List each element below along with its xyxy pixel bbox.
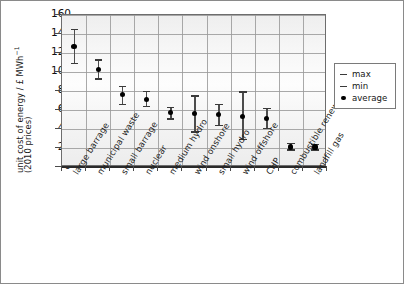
legend-dash-icon bbox=[339, 70, 348, 79]
average-marker bbox=[264, 116, 269, 121]
gridline-horizontal bbox=[62, 91, 325, 92]
average-marker bbox=[71, 44, 76, 49]
x-tick-mark bbox=[157, 166, 158, 171]
gridline-horizontal bbox=[62, 15, 325, 16]
y-axis-title-line2: (2010 prices) bbox=[23, 117, 33, 174]
average-marker bbox=[96, 67, 101, 72]
legend-item-min: min bbox=[339, 80, 392, 92]
gridline-horizontal bbox=[62, 53, 325, 54]
average-marker bbox=[240, 114, 245, 119]
legend-dot-icon bbox=[339, 94, 348, 103]
average-marker bbox=[120, 92, 125, 97]
error-bar-cap-min bbox=[71, 63, 79, 65]
error-bar-cap-max bbox=[167, 107, 175, 109]
average-marker bbox=[144, 97, 149, 102]
gridline-horizontal bbox=[62, 148, 325, 149]
error-bar-cap-max bbox=[71, 29, 79, 31]
error-bar-cap-max bbox=[215, 104, 223, 106]
y-axis-title-exponent: −1 bbox=[13, 46, 20, 55]
x-tick-mark bbox=[61, 166, 62, 171]
gridline-vertical bbox=[255, 15, 256, 165]
average-marker bbox=[192, 111, 197, 116]
gridline-vertical bbox=[207, 15, 208, 165]
error-bar-cap-max bbox=[95, 59, 103, 61]
gridline-vertical bbox=[134, 15, 135, 165]
legend-label: min bbox=[352, 81, 368, 91]
error-bar-cap-max bbox=[119, 86, 127, 88]
average-marker bbox=[168, 110, 173, 115]
legend-item-average: average bbox=[339, 92, 392, 104]
gridline-horizontal bbox=[62, 72, 325, 73]
chart-figure: unit cost of energy / £ MWh−1 (2010 pric… bbox=[0, 0, 404, 284]
gridline-vertical bbox=[86, 15, 87, 165]
legend-dash-icon bbox=[339, 82, 348, 91]
error-bar-cap-min bbox=[167, 118, 175, 120]
gridline-vertical bbox=[303, 15, 304, 165]
gridline-vertical bbox=[110, 15, 111, 165]
error-bar-cap-max bbox=[263, 108, 271, 110]
legend-label: max bbox=[352, 69, 371, 79]
gridline-vertical bbox=[231, 15, 232, 165]
gridline-horizontal bbox=[62, 34, 325, 35]
error-bar-cap-max bbox=[191, 95, 199, 97]
error-bar-cap-max bbox=[143, 91, 151, 93]
gridline-vertical bbox=[279, 15, 280, 165]
error-bar-cap-min bbox=[143, 106, 151, 108]
error-bar-cap-min bbox=[95, 78, 103, 80]
legend-item-max: max bbox=[339, 68, 392, 80]
error-bar-cap-max bbox=[239, 91, 247, 93]
legend-label: average bbox=[352, 93, 387, 103]
average-marker bbox=[216, 112, 221, 117]
y-axis-title: unit cost of energy / £ MWh−1 (2010 pric… bbox=[1, 1, 31, 181]
legend: maxminaverage bbox=[334, 63, 396, 109]
x-tick-mark bbox=[181, 166, 182, 171]
error-bar-cap-min bbox=[119, 104, 127, 106]
